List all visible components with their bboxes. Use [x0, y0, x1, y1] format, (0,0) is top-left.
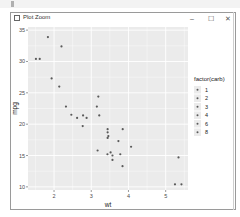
legend-point — [197, 114, 199, 116]
data-point — [58, 85, 60, 87]
data-point — [47, 36, 49, 38]
data-point — [117, 140, 119, 142]
data-point — [107, 128, 109, 130]
scatter-plot: 2345101520253035wtmpgfactor(carb)123468 — [0, 0, 240, 217]
y-tick-label: 15 — [19, 153, 25, 159]
data-point — [130, 146, 132, 148]
data-point — [122, 128, 124, 130]
x-tick-label: 3 — [90, 193, 93, 199]
data-point — [107, 137, 109, 139]
legend-point — [197, 97, 199, 99]
y-tick-label: 30 — [19, 58, 25, 64]
data-point — [98, 114, 100, 116]
data-point — [82, 114, 84, 116]
legend-label: 2 — [205, 95, 208, 101]
legend-label: 6 — [205, 121, 208, 127]
legend-label: 3 — [205, 104, 208, 110]
data-point — [107, 131, 109, 133]
data-point — [60, 45, 62, 47]
legend-point — [197, 131, 199, 133]
x-tick-label: 5 — [164, 193, 167, 199]
data-point — [111, 159, 113, 161]
x-axis-label: wt — [104, 201, 112, 208]
y-tick-label: 10 — [19, 184, 25, 190]
y-tick-label: 25 — [19, 90, 25, 96]
data-point — [107, 135, 109, 137]
data-point — [76, 117, 78, 119]
x-tick-label: 2 — [53, 193, 56, 199]
data-point — [82, 125, 84, 127]
legend-title: factor(carb) — [194, 76, 225, 82]
legend-label: 4 — [205, 112, 208, 118]
data-point — [96, 106, 98, 108]
data-point — [174, 183, 176, 185]
data-point — [96, 149, 98, 151]
data-point — [106, 153, 108, 155]
data-point — [111, 154, 113, 156]
legend-point — [197, 106, 199, 108]
data-point — [180, 183, 182, 185]
y-tick-label: 20 — [19, 121, 25, 127]
y-tick-label: 35 — [19, 27, 25, 33]
legend-point — [197, 123, 199, 125]
data-point — [65, 106, 67, 108]
data-point — [70, 114, 72, 116]
legend-label: 8 — [205, 129, 208, 135]
window-edge — [233, 12, 234, 210]
data-point — [39, 58, 41, 60]
data-point — [121, 165, 123, 167]
x-tick-label: 4 — [127, 193, 130, 199]
data-point — [119, 153, 121, 155]
legend-point — [197, 89, 199, 91]
legend-label: 1 — [205, 87, 208, 93]
data-point — [86, 117, 88, 119]
data-point — [51, 77, 53, 79]
data-point — [35, 58, 37, 60]
data-point — [110, 151, 112, 153]
y-axis-label: mpg — [11, 102, 19, 115]
data-point — [177, 156, 179, 158]
data-point — [97, 95, 99, 97]
